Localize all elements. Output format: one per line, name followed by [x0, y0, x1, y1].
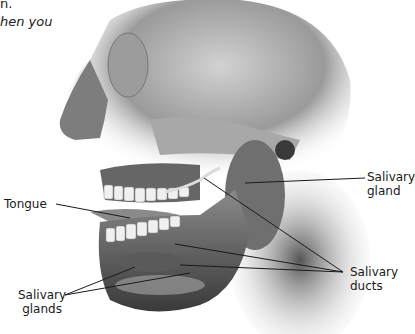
- label-salivary-gland-line1: Salivary: [367, 170, 415, 184]
- label-salivary-glands-line1: Salivary: [18, 288, 66, 302]
- sublingual-gland: [118, 252, 182, 272]
- label-tongue-text: Tongue: [4, 197, 47, 211]
- label-salivary-ducts-line1: Salivary: [350, 265, 398, 279]
- label-tongue: Tongue: [4, 197, 47, 211]
- eye-socket: [108, 33, 148, 97]
- label-salivary-gland: Salivary gland: [367, 170, 415, 198]
- label-salivary-ducts: Salivary ducts: [350, 265, 398, 293]
- label-salivary-glands: Salivary glands: [18, 288, 66, 316]
- label-salivary-ducts-line2: ducts: [350, 279, 398, 293]
- ear-canal: [275, 140, 295, 160]
- label-salivary-glands-line2: glands: [18, 302, 66, 316]
- label-salivary-gland-line2: gland: [367, 184, 415, 198]
